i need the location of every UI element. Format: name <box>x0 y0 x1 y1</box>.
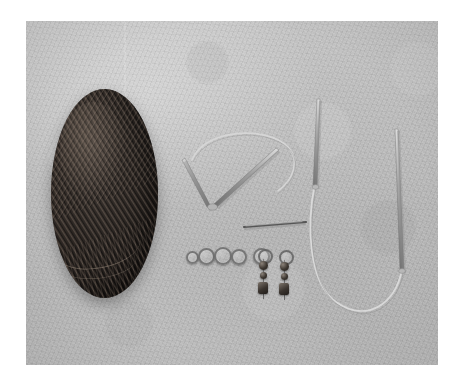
ring-stitch-marker-3 <box>214 247 232 265</box>
photo-alt-text: A dark brown oval ball of yarn on the le… <box>0 16 1 17</box>
circular-needle-u-cable <box>310 183 402 311</box>
circular-needle-u-joiner-left <box>312 185 319 190</box>
dangle-charm-1 <box>258 282 268 294</box>
circular-needle-v-tip-right-shadow <box>216 151 281 210</box>
ring-stitch-marker-4 <box>231 249 247 265</box>
dangle-bead-1a <box>259 261 268 270</box>
circular-needle-u-joiner-right <box>399 269 406 274</box>
circular-needle-v-tip-left-shadow <box>184 161 212 210</box>
photograph <box>26 21 438 365</box>
dangle-bead-2b <box>281 273 288 280</box>
circular-needle-v-tip-right <box>214 148 279 207</box>
ring-stitch-marker-2 <box>198 248 215 265</box>
dangle-charm-2 <box>279 283 289 295</box>
screenshot-root: A dark brown oval ball of yarn on the le… <box>0 0 466 387</box>
dangle-bead-2a <box>280 262 289 271</box>
circular-needle-v-joiner <box>208 204 218 210</box>
dangle-stitch-marker-1 <box>257 249 271 301</box>
dangle-bead-1b <box>260 272 267 279</box>
ring-stitch-marker-1 <box>186 251 199 264</box>
dangle-stitch-marker-2 <box>278 250 292 302</box>
circular-needle-u-cable-shadow <box>312 186 404 314</box>
knitting-needles-layer <box>26 21 438 365</box>
